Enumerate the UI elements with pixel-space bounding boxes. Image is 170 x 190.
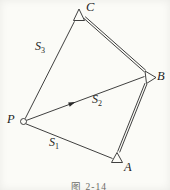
point-b-label: B <box>157 70 165 83</box>
vector-s1-subscript: 1 <box>55 142 59 151</box>
point-a-triangle-marker <box>112 153 123 163</box>
vector-s1-line <box>26 124 113 159</box>
point-p-circle-marker <box>21 119 27 125</box>
point-c-triangle-marker <box>74 9 85 21</box>
displacement-cb-line-upper <box>85 17 146 70</box>
displacement-ba-line-left <box>118 83 145 152</box>
vector-s3-subscript: 3 <box>41 46 45 55</box>
vector-s2-arrowhead-icon <box>68 102 75 107</box>
vector-s2-label: S2 <box>92 93 102 108</box>
vector-displacement-figure: P C B A S3 S2 S1 图 2-14 <box>0 0 170 190</box>
vector-s3-label: S3 <box>35 40 45 55</box>
figure-caption: 图 2-14 <box>58 182 120 190</box>
displacement-cb-line-lower <box>84 18 145 72</box>
vector-s2-subscript: 2 <box>98 99 102 108</box>
diagram-canvas <box>0 0 170 190</box>
vector-s3-line <box>25 21 74 118</box>
point-b-triangle-marker <box>145 71 156 84</box>
displacement-ba-line-right <box>120 84 147 152</box>
point-a-label: A <box>124 161 132 174</box>
point-p-label: P <box>7 113 15 126</box>
vector-s2-line <box>26 77 144 121</box>
vector-s1-label: S1 <box>49 136 59 151</box>
point-c-label: C <box>86 1 94 14</box>
